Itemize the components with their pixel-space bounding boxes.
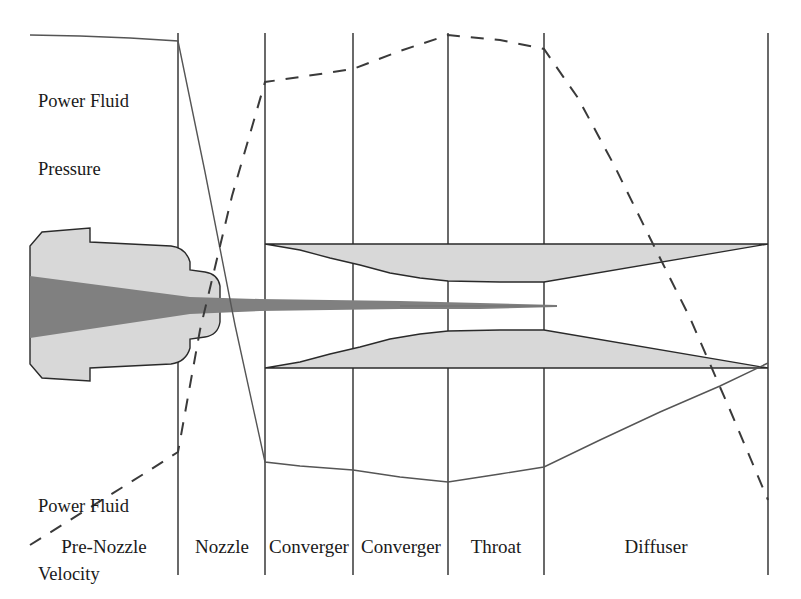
section-label-nozzle: Nozzle	[181, 535, 263, 558]
pressure-curve-label: Power Fluid Pressure	[38, 45, 129, 226]
pressure-label-line1: Power Fluid	[38, 90, 129, 113]
velocity-curve-label: Power Fluid Velocity	[38, 450, 129, 599]
lower-wall-body	[265, 330, 768, 368]
section-label-pre-nozzle: Pre-Nozzle	[34, 535, 174, 558]
upper-wall-body	[265, 244, 768, 282]
jet-pump-diagram: Power Fluid Pressure Power Fluid Velocit…	[0, 0, 801, 599]
velocity-label-line2: Velocity	[38, 563, 129, 586]
section-label-throat: Throat	[450, 535, 542, 558]
velocity-label-line1: Power Fluid	[38, 495, 129, 518]
section-label-converger-1: Converger	[266, 535, 352, 558]
section-label-diffuser: Diffuser	[546, 535, 766, 558]
pressure-label-line2: Pressure	[38, 158, 129, 181]
section-label-converger-2: Converger	[355, 535, 447, 558]
